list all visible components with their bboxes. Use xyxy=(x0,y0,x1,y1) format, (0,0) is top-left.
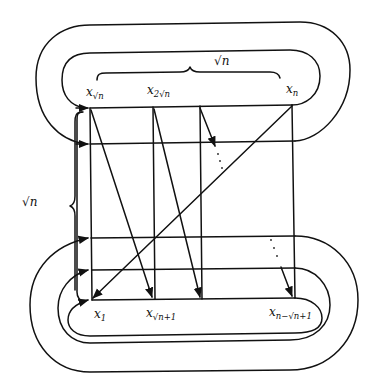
label-x-n-minus-sqrt-n-plus-1: xn−√n+1 xyxy=(269,306,312,318)
diagram: x√n x2√n xn x1 x√n+1 xn−√n+1 √n √n xyxy=(0,0,377,390)
label-x-sqrt-n-plus-1: x√n+1 xyxy=(146,307,176,319)
label-base: x xyxy=(146,306,153,320)
label-base: x xyxy=(286,82,293,96)
label-base: x xyxy=(86,85,93,99)
top-brace-label: √n xyxy=(214,55,229,67)
label-subscript: √n xyxy=(93,91,104,101)
label-base: x xyxy=(269,305,276,319)
label-subscript: 1 xyxy=(101,313,106,323)
diagram-canvas xyxy=(0,0,377,390)
left-brace-label: √n xyxy=(22,196,37,208)
label-x-1: x1 xyxy=(94,308,106,320)
label-x-sqrt-n: x√n xyxy=(86,86,104,98)
top-outer-loop xyxy=(36,22,350,144)
label-base: x xyxy=(147,83,154,97)
label-subscript: n xyxy=(293,88,298,98)
label-subscript: 2√n xyxy=(154,89,170,99)
label-subscript: √n+1 xyxy=(153,312,176,322)
left-brace xyxy=(70,112,82,290)
label-x-2sqrt-n: x2√n xyxy=(147,84,170,96)
label-base: x xyxy=(94,307,101,321)
top-brace xyxy=(97,67,280,80)
label-subscript: n−√n+1 xyxy=(276,311,312,321)
label-x-n: xn xyxy=(286,83,298,95)
